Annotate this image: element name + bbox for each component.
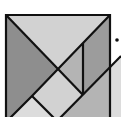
dot-marker <box>115 38 119 42</box>
tangram-diagram <box>0 0 121 117</box>
tangram-pieces <box>6 15 121 117</box>
